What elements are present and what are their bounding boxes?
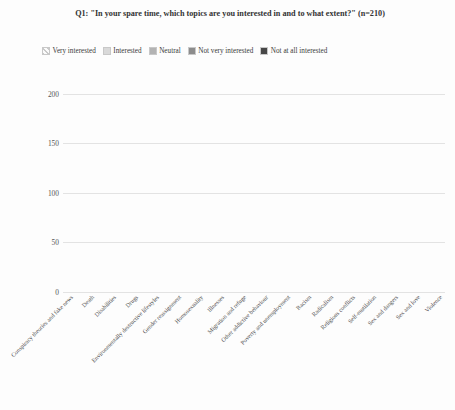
x-axis-tick-label: Drugs xyxy=(124,294,139,309)
stacked-bar-chart: Q1: "In your spare time, which topics ar… xyxy=(0,0,455,410)
legend-label: Very interested xyxy=(53,47,96,55)
chart-title: Q1: "In your spare time, which topics ar… xyxy=(60,8,400,20)
plot-area: 050100150200 xyxy=(63,84,445,292)
legend-item[interactable]: Not at all interested xyxy=(260,47,327,55)
legend-item[interactable]: Very interested xyxy=(42,47,96,55)
legend-item[interactable]: Neutral xyxy=(149,47,181,55)
x-axis-tick-label: Disabilities xyxy=(93,294,117,318)
legend-swatch-icon xyxy=(149,47,157,55)
legend-label: Neutral xyxy=(159,47,181,55)
y-axis-tick-label: 0 xyxy=(55,288,59,297)
x-axis-tick-label: Racism xyxy=(295,294,312,311)
chart-legend: Very interestedInterestedNeutralNot very… xyxy=(42,44,442,58)
legend-swatch-icon xyxy=(260,47,268,55)
legend-item[interactable]: Interested xyxy=(103,47,142,55)
legend-label: Not very interested xyxy=(198,47,253,55)
bar-group xyxy=(63,84,445,292)
legend-swatch-icon xyxy=(188,47,196,55)
y-axis-tick-label: 150 xyxy=(48,139,59,148)
x-axis-tick-label: Migration and refuge xyxy=(207,294,248,335)
x-axis-tick-label: Death xyxy=(81,294,96,309)
legend-item[interactable]: Not very interested xyxy=(188,47,254,55)
legend-swatch-icon xyxy=(103,47,111,55)
x-axis-tick-label: Conspiracy theories and fake news xyxy=(9,294,73,358)
x-axis-tick-label: Violence xyxy=(423,294,443,314)
x-axis-tick-label: Illnesses xyxy=(207,294,226,313)
gridline xyxy=(63,292,445,293)
x-axis-tick-label: Gender reassignment xyxy=(142,294,183,335)
y-axis-tick-label: 200 xyxy=(48,89,59,98)
legend-swatch-icon xyxy=(42,47,50,55)
legend-label: Interested xyxy=(113,47,141,55)
y-axis-tick-label: 50 xyxy=(52,238,59,247)
legend-label: Not at all interested xyxy=(271,47,327,55)
y-axis-tick-label: 100 xyxy=(48,188,59,197)
x-axis-labels: Conspiracy theories and fake newsDeathDi… xyxy=(63,294,445,406)
